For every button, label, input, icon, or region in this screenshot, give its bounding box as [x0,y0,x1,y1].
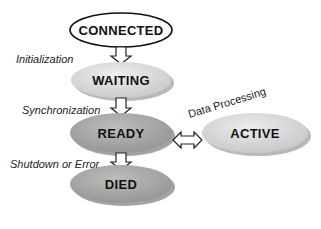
state-connected-label: CONNECTED [70,13,172,47]
double-arrow-icon [173,132,202,148]
state-waiting-label: WAITING [71,62,171,98]
state-diagram: CONNECTED WAITING READY ACTIVE DIED Init… [0,0,321,229]
transition-label-initialization: Initialization [16,53,73,65]
transition-label-synchronization: Synchronization [22,104,100,116]
transition-label-shutdown-or-error: Shutdown or Error [10,158,99,170]
state-active-label: ACTIVE [202,113,308,153]
state-died-label: DIED [70,165,172,203]
state-ready-label: READY [70,113,172,153]
